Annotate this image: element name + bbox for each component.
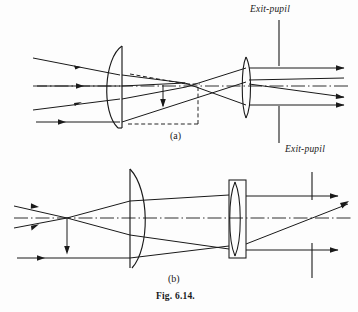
panel-b-eye-lens: [229, 180, 246, 258]
panel-b-label: (b): [168, 274, 180, 284]
panel-b-ray-upper: [14, 193, 339, 218]
panel-a-ray-lower-oblique: [33, 65, 345, 110]
figure-caption: Fig. 6.14.: [156, 292, 195, 302]
panel-a-group: [33, 20, 350, 143]
panel-b-ray-second: [14, 218, 339, 253]
panel-b-exit-pupil-label: Exit-pupil: [285, 145, 325, 155]
panel-b-group: [14, 169, 352, 278]
panel-a-ray-pupil-upper: [249, 78, 344, 80]
panel-a-eye-lens: [242, 57, 250, 118]
figure-page: Exit-pupil (a) Exit-pupil (b) Fig. 6.14.: [0, 0, 358, 312]
panel-a-label: (a): [170, 131, 181, 141]
panel-b-objective-lens: [130, 169, 145, 268]
panel-b-object-arrow: [64, 219, 70, 255]
panel-a-objective-lens: [107, 46, 122, 128]
panel-a-exit-pupil-label: Exit-pupil: [250, 5, 290, 15]
panel-a-intermediate-image-arrow: [160, 85, 166, 108]
optical-ray-diagram: [0, 0, 358, 312]
